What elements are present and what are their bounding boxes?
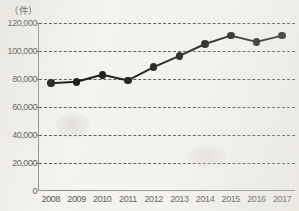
series-line-svg — [0, 0, 299, 211]
data-point-marker — [73, 78, 81, 86]
line-chart-figure: （件） 120,000100,00080,00060,00040,00020,0… — [0, 0, 299, 211]
data-series-layer — [0, 0, 299, 211]
data-point-marker — [201, 40, 209, 48]
data-point-marker — [227, 32, 235, 40]
data-point-marker — [99, 71, 107, 79]
data-point-marker — [124, 77, 132, 85]
series-line — [51, 36, 282, 84]
data-point-marker — [47, 79, 55, 87]
data-point-marker — [176, 52, 184, 60]
data-point-marker — [253, 38, 261, 46]
